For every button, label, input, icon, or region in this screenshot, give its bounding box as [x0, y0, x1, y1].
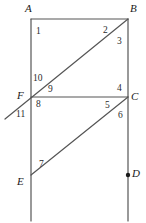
angle-2-label: 2 [103, 26, 108, 36]
geometry-figure: ABFCED 1234567891011 [0, 0, 146, 223]
angle-9-label: 9 [48, 85, 53, 95]
angle-10-label: 10 [33, 74, 43, 84]
angle-6-label: 6 [118, 111, 123, 121]
segment-EC [31, 97, 128, 175]
point-label-f: F [17, 90, 24, 101]
segments-group [5, 19, 128, 221]
angle-3-label: 3 [117, 37, 122, 47]
angle-4-label: 4 [117, 84, 122, 94]
point-markers-group [126, 173, 130, 177]
point-label-e: E [17, 176, 24, 187]
angle-8-label: 8 [36, 100, 41, 110]
point-label-a: A [25, 3, 32, 14]
point-dot-d [126, 173, 130, 177]
point-label-c: C [131, 91, 138, 102]
angle-7-label: 7 [39, 160, 44, 170]
angle-5-label: 5 [105, 101, 110, 111]
point-label-d: D [132, 168, 140, 179]
angle-11-label: 11 [16, 110, 25, 120]
angle-1-label: 1 [36, 27, 41, 37]
point-label-b: B [130, 3, 137, 14]
